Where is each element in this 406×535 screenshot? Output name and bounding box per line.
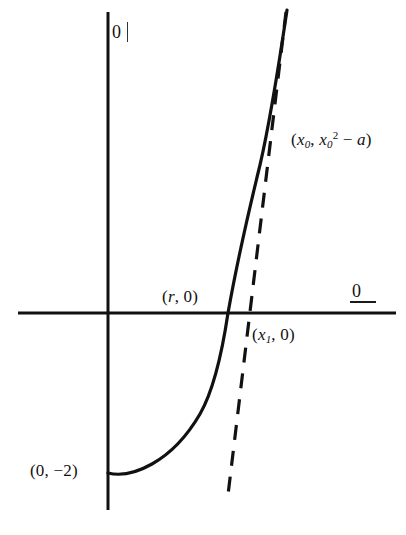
comma: , [310,130,319,149]
newton-method-figure: 0 0 (x0, x02 − a) (r, 0) (x1, 0) (0, −2) [0,0,406,535]
var-a: a [357,130,366,149]
x-axis-label-underline [350,301,376,303]
sub-0-b: 0 [327,138,333,150]
x-axis-label: 0 [352,282,376,303]
sub-1: 1 [266,333,272,345]
parabola-curve [108,10,287,474]
y-axis-tick-mark [127,22,128,42]
minus-sign: − [338,130,357,149]
next-iterate-label: (x1, 0) [252,326,295,343]
var-x0-squared: x [319,130,327,149]
paren-close: ) [366,130,372,149]
tangent-point-label: (x0, x02 − a) [291,131,372,148]
x1-rest: , 0) [271,325,294,344]
tangent-line [228,12,286,495]
var-x1: x [258,325,266,344]
var-r: r [168,287,175,306]
sub-0: 0 [305,138,311,150]
x-axis-label-text: 0 [352,281,361,301]
root-label: (r, 0) [162,288,198,305]
plot-canvas [0,0,406,535]
y-intercept-label: (0, −2) [30,462,78,479]
root-rest: , 0) [175,287,198,306]
y-axis-label: 0 [112,22,128,42]
var-x0: x [297,130,305,149]
sup-2: 2 [333,129,339,141]
y-axis-label-text: 0 [112,22,121,42]
